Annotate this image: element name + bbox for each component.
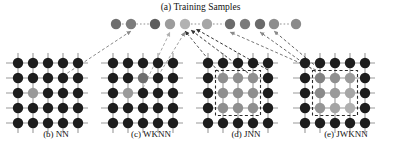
grid-node-jwknn-r1c0 [300, 73, 310, 83]
grid-node-jnn-r1c0 [203, 73, 213, 83]
arrow-wknn-to-b [158, 32, 185, 76]
training-sample-node-8 [255, 19, 265, 29]
grid-node-jwknn-r2c4 [360, 88, 370, 98]
grid-node-jwknn-r0c3 [345, 58, 355, 68]
grid-node-jnn-r1c4 [263, 73, 273, 83]
grid-node-nn-r2c2 [43, 88, 53, 98]
grid-node-nn-r3c2 [43, 103, 53, 113]
grid-node-nn-r1c1 [28, 73, 38, 83]
grid-node-wknn-r3c0 [108, 103, 118, 113]
panel-caption-wknn: (c) WKNN [105, 129, 197, 139]
grid-node-nn-r1c3 [58, 73, 68, 83]
training-sample-node-1 [126, 19, 136, 29]
grid-node-wknn-r0c3 [153, 58, 163, 68]
grid-node-wknn-r2c0 [108, 88, 118, 98]
training-sample-node-9 [269, 19, 279, 29]
grid-node-jnn-r1c3 [248, 73, 258, 83]
grid-node-jnn-r2c0 [203, 88, 213, 98]
grid-node-jwknn-r0c2 [330, 58, 340, 68]
grid-node-nn-r4c0 [13, 118, 23, 128]
figure-container: (a) Training Samples (b) NN (c) WKNN (d)… [0, 0, 401, 148]
grid-node-jnn-r4c3 [248, 118, 258, 128]
grid-node-wknn-r3c1 [123, 103, 133, 113]
training-sample-node-6 [225, 19, 235, 29]
grid-node-jwknn-r2c3 [345, 88, 355, 98]
grid-node-nn-r2c3 [58, 88, 68, 98]
grid-node-jwknn-r1c1 [315, 73, 325, 83]
grid-node-jnn-r4c2 [233, 118, 243, 128]
grid-node-jnn-r0c4 [263, 58, 273, 68]
grid-node-wknn-r0c2 [138, 58, 148, 68]
grid-node-wknn-r3c4 [168, 103, 178, 113]
grid-node-nn-r2c0 [13, 88, 23, 98]
panel-caption-jnn: (d) JNN [200, 129, 292, 139]
grid-node-jnn-r3c3 [248, 103, 258, 113]
grid-node-nn-r0c3 [58, 58, 68, 68]
grid-node-jnn-r4c1 [218, 118, 228, 128]
arrow-jnn-to-a [185, 31, 222, 76]
grid-node-jnn-r0c1 [218, 58, 228, 68]
panel-caption-jwknn: (e) JWKNN [298, 129, 394, 139]
grid-node-jwknn-r2c1 [315, 88, 325, 98]
grid-node-jnn-r4c0 [203, 118, 213, 128]
grid-node-wknn-r2c1 [123, 88, 133, 98]
grid-node-nn-r4c1 [28, 118, 38, 128]
grid-node-nn-r1c4 [73, 73, 83, 83]
grid-node-wknn-r3c2 [138, 103, 148, 113]
grid-node-jnn-r3c1 [218, 103, 228, 113]
grid-node-wknn-r0c1 [123, 58, 133, 68]
grid-node-nn-r3c4 [73, 103, 83, 113]
training-sample-node-10 [291, 19, 301, 29]
training-sample-node-3 [165, 19, 175, 29]
training-sample-node-5 [202, 19, 212, 29]
grid-node-jnn-r0c3 [248, 58, 258, 68]
grid-node-nn-r3c0 [13, 103, 23, 113]
grid-nodes-layer [13, 58, 370, 128]
grid-node-wknn-r4c2 [138, 118, 148, 128]
grid-node-jwknn-r4c3 [345, 118, 355, 128]
grid-node-jnn-r3c0 [203, 103, 213, 113]
grid-node-jwknn-r0c1 [315, 58, 325, 68]
grid-node-jnn-r2c2 [233, 88, 243, 98]
grid-node-nn-r0c1 [28, 58, 38, 68]
grid-node-jwknn-r3c3 [345, 103, 355, 113]
grid-node-nn-r1c2 [43, 73, 53, 83]
grid-node-jnn-r1c1 [218, 73, 228, 83]
grid-node-jnn-r3c4 [263, 103, 273, 113]
grid-node-wknn-r4c0 [108, 118, 118, 128]
grid-node-jwknn-r1c4 [360, 73, 370, 83]
arrows-layer [63, 29, 318, 88]
grid-node-jwknn-r4c4 [360, 118, 370, 128]
grid-node-wknn-r3c3 [153, 103, 163, 113]
grid-node-jwknn-r2c0 [300, 88, 310, 98]
grid-node-wknn-r0c4 [168, 58, 178, 68]
grid-node-nn-r3c3 [58, 103, 68, 113]
grid-node-wknn-r1c2 [138, 73, 148, 83]
grid-node-jwknn-r1c2 [330, 73, 340, 83]
grid-node-nn-r4c4 [73, 118, 83, 128]
grid-node-jwknn-r4c1 [315, 118, 325, 128]
grid-node-wknn-r1c0 [108, 73, 118, 83]
panel-caption-nn: (b) NN [10, 129, 102, 139]
grid-node-wknn-r1c4 [168, 73, 178, 83]
grid-node-jwknn-r3c2 [330, 103, 340, 113]
grid-node-wknn-r4c3 [153, 118, 163, 128]
grid-node-wknn-r4c1 [123, 118, 133, 128]
training-sample-node-2 [150, 19, 160, 29]
training-sample-node-0 [111, 19, 121, 29]
grid-node-jwknn-r4c0 [300, 118, 310, 128]
grid-node-jnn-r2c1 [218, 88, 228, 98]
grid-node-nn-r0c4 [73, 58, 83, 68]
grid-node-nn-r2c1 [28, 88, 38, 98]
grid-node-jnn-r3c2 [233, 103, 243, 113]
grid-node-wknn-r0c0 [108, 58, 118, 68]
grid-node-nn-r0c2 [43, 58, 53, 68]
grid-node-jwknn-r3c1 [315, 103, 325, 113]
grid-node-nn-r4c3 [58, 118, 68, 128]
grid-node-nn-r4c2 [43, 118, 53, 128]
training-samples-layer [111, 19, 301, 29]
training-sample-node-4 [180, 19, 190, 29]
grid-node-jwknn-r0c4 [360, 58, 370, 68]
grid-node-wknn-r2c4 [168, 88, 178, 98]
diagram-canvas [0, 0, 401, 148]
